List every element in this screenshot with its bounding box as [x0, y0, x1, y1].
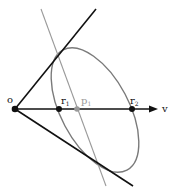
label-o: o [7, 94, 13, 105]
label-r1: r1 [61, 95, 70, 107]
label-p1: p1 [81, 95, 91, 107]
upper-tangent-line [15, 9, 96, 109]
lower-tangent-line [15, 109, 133, 186]
point-p1 [74, 106, 80, 112]
point-o [12, 106, 19, 113]
label-r2: r2 [130, 95, 139, 107]
point-r1 [56, 106, 62, 112]
cone-ellipse-diagram: o r1 p1 r2 v [0, 0, 182, 195]
ellipse [33, 34, 157, 186]
arrowhead-icon [149, 106, 158, 113]
label-v: v [161, 103, 168, 114]
